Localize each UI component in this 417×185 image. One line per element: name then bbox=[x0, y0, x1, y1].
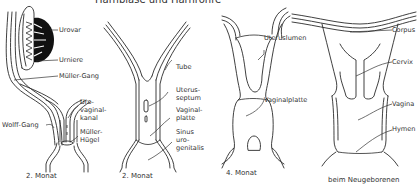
label-urovaginalkanal-2: vaginal- bbox=[80, 106, 107, 114]
label-urovaginalkanal-3: kanal bbox=[80, 114, 98, 122]
panel-2-labels: Tube Uterus- septum Vaginal- platte Sinu… bbox=[122, 63, 205, 180]
label-sinus-1: Sinus bbox=[176, 128, 194, 136]
label-mueller-gang: Müller-Gang bbox=[59, 72, 99, 80]
label-hymen: Hymen bbox=[392, 125, 416, 133]
label-uterusseptum-2: septum bbox=[176, 94, 201, 102]
panel-4-drawing bbox=[292, 12, 416, 166]
label-mueller-huegel-1: Müller- bbox=[80, 128, 103, 136]
embryology-diagram: Harnblase und Harnröhre bbox=[0, 0, 417, 185]
label-vagina: Vagina bbox=[392, 100, 414, 108]
label-urniere: Urniere bbox=[59, 56, 83, 64]
label-vaginalplatte-p3: Vaginalplatte bbox=[264, 96, 307, 104]
figure-title: Harnblase und Harnröhre bbox=[95, 0, 221, 5]
label-urovaginalkanal-1: Uro- bbox=[80, 98, 95, 106]
panel-3-labels: Uteruslumen Vaginalplatte 4. Monat bbox=[226, 34, 307, 177]
label-mueller-huegel-2: Hügel bbox=[80, 136, 99, 144]
label-sinus-3: genitalis bbox=[176, 144, 205, 152]
label-vaginalplatte-1: Vaginal- bbox=[176, 106, 203, 114]
label-sinus-2: uro- bbox=[176, 136, 190, 144]
label-uterusseptum-1: Uterus- bbox=[176, 86, 201, 94]
label-wolff-gang: Wolff-Gang bbox=[2, 121, 39, 129]
panel-3-drawing bbox=[222, 8, 290, 168]
caption-panel-2: 2. Monat bbox=[122, 172, 153, 180]
caption-panel-3: 4. Monat bbox=[226, 169, 257, 177]
label-uteruslumen: Uteruslumen bbox=[264, 34, 306, 42]
label-cervix: Cervix bbox=[392, 58, 413, 66]
label-vaginalplatte-2: platte bbox=[176, 114, 195, 122]
label-tube: Tube bbox=[175, 63, 191, 71]
caption-panel-4: beim Neugeborenen bbox=[328, 176, 399, 184]
panel-4-labels: Corpus Cervix Vagina Hymen beim Neugebor… bbox=[328, 26, 416, 184]
caption-panel-1: 2. Monat bbox=[26, 172, 57, 180]
label-urovar: Urovar bbox=[59, 26, 81, 34]
label-corpus: Corpus bbox=[392, 26, 416, 34]
